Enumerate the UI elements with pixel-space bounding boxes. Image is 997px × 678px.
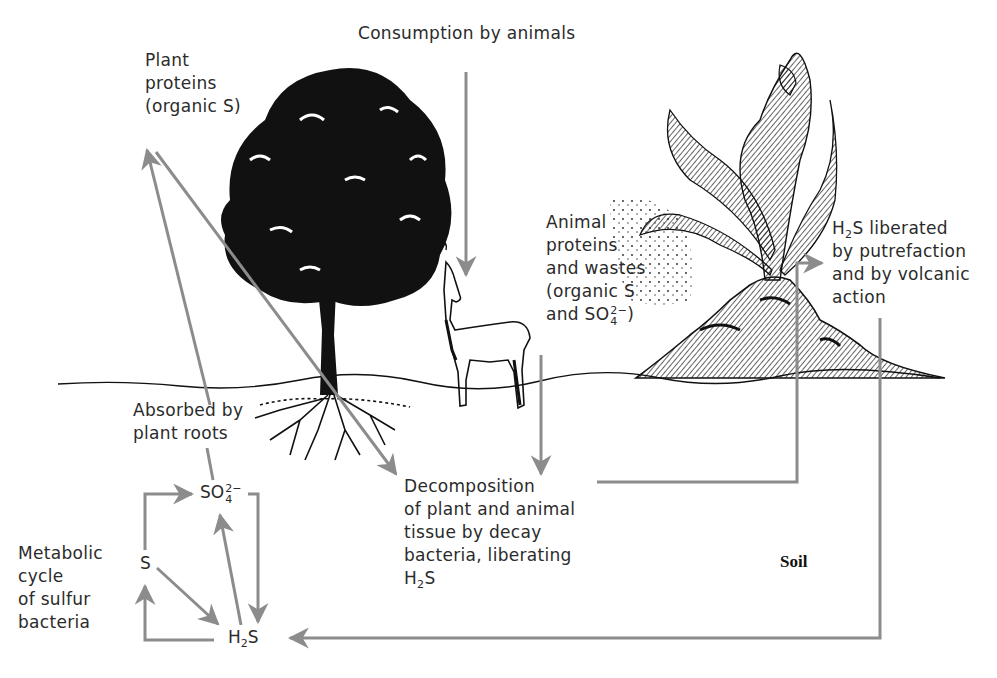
- s: S: [424, 568, 435, 588]
- volcano-illustration: [610, 53, 945, 378]
- metabolic-line-3: of sulfur: [18, 588, 103, 611]
- plant-proteins-line-3: (organic S): [145, 95, 241, 118]
- animal-proteins-line-1: Animal: [546, 211, 646, 234]
- absorbed-line-1: Absorbed by: [133, 399, 243, 422]
- node-sulfur: S: [140, 553, 151, 573]
- label-plant-proteins: Plant proteins (organic S): [145, 49, 241, 118]
- sulfate-ion-charge: 2−4: [610, 305, 627, 327]
- metabolic-line-1: Metabolic: [18, 542, 103, 565]
- label-consumption-by-animals: Consumption by animals: [358, 22, 575, 45]
- arrow-h2s-to-sulfate: [220, 515, 241, 625]
- animal-proteins-line-5: and SO2−4): [546, 303, 646, 326]
- arrow-sulfate-to-h2s: [248, 494, 258, 622]
- label-h2s-liberated: H2S liberated by putrefaction and by vol…: [832, 217, 970, 309]
- h2s-liberated-line-1: H2S liberated: [832, 217, 970, 240]
- h2s-liberated-line-4: action: [832, 286, 970, 309]
- sulfate-charge: 2−4: [225, 483, 241, 505]
- h: H: [832, 218, 845, 238]
- plant-proteins-line-1: Plant: [145, 49, 241, 72]
- line-sulfate-to-absorbed: [207, 448, 213, 480]
- label-animal-proteins: Animal proteins and wastes (organic S an…: [546, 211, 646, 326]
- decomposition-line-5: H2S: [404, 567, 575, 590]
- subscript: 4: [225, 494, 241, 505]
- plant-proteins-line-2: proteins: [145, 72, 241, 95]
- node-sulfate: SO2−4: [200, 482, 241, 504]
- llama-illustration: [444, 262, 530, 408]
- h: H: [404, 568, 417, 588]
- subscript: 2: [241, 637, 248, 650]
- subscript: 4: [610, 316, 627, 327]
- h2s-liberated-line-2: by putrefaction: [832, 240, 970, 263]
- metabolic-line-4: bacteria: [18, 611, 103, 634]
- roots-illustration: [255, 395, 410, 460]
- so: SO: [200, 482, 224, 502]
- label-decomposition: Decomposition of plant and animal tissue…: [404, 475, 575, 590]
- label-metabolic-cycle: Metabolic cycle of sulfur bacteria: [18, 542, 103, 634]
- sulfate-text: and SO: [546, 304, 609, 324]
- label-soil: Soil: [780, 552, 807, 572]
- arrow-roots-to-plant-proteins: [147, 150, 210, 405]
- animal-proteins-line-3: and wastes: [546, 257, 646, 280]
- h: H: [228, 627, 241, 647]
- node-hydrogen-sulfide: H2S: [228, 627, 259, 647]
- arrow-s-to-h2s: [157, 568, 218, 624]
- s-liberated: S liberated: [852, 218, 948, 238]
- animal-proteins-line-4: (organic S: [546, 280, 646, 303]
- metabolic-line-2: cycle: [18, 565, 103, 588]
- s: S: [248, 627, 259, 647]
- label-absorbed-by-roots: Absorbed by plant roots: [133, 399, 243, 445]
- decomposition-line-1: Decomposition: [404, 475, 575, 498]
- animal-proteins-line-2: proteins: [546, 234, 646, 257]
- close-paren: ): [627, 304, 634, 324]
- absorbed-line-2: plant roots: [133, 422, 243, 445]
- h2s-liberated-line-3: and by volcanic: [832, 263, 970, 286]
- decomposition-line-2: of plant and animal: [404, 498, 575, 521]
- decomposition-line-3: tissue by decay: [404, 521, 575, 544]
- arrow-s-to-sulfate: [145, 494, 192, 550]
- arrow-h2s-to-s: [145, 586, 214, 640]
- decomposition-line-4: bacteria, liberating: [404, 544, 575, 567]
- tree-illustration: [221, 68, 451, 395]
